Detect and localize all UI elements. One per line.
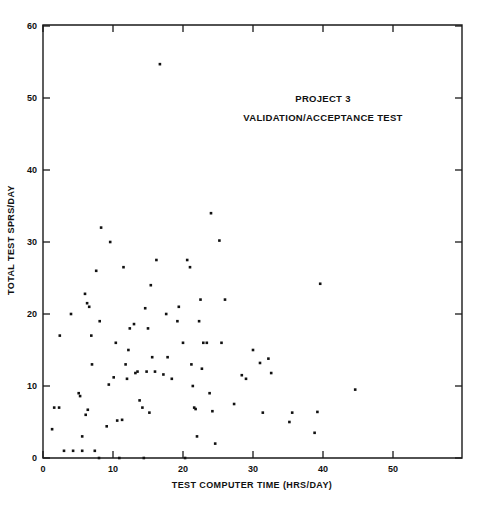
data-point	[63, 450, 66, 453]
y-axis-title: TOTAL TEST SPRS/DAY	[6, 185, 16, 295]
y-tick-label: 20	[27, 309, 37, 319]
data-point	[94, 450, 97, 453]
data-point	[214, 442, 217, 445]
data-point	[144, 307, 147, 310]
data-point	[354, 388, 357, 391]
data-point	[159, 63, 162, 66]
data-point	[77, 392, 80, 395]
data-point	[145, 370, 148, 373]
data-point	[53, 406, 56, 409]
data-point	[86, 302, 89, 305]
data-point	[118, 457, 121, 460]
data-point	[210, 212, 213, 215]
data-point	[121, 419, 124, 422]
data-point	[184, 457, 187, 460]
data-point	[127, 349, 130, 352]
data-point	[141, 406, 144, 409]
y-tick-label: 60	[27, 21, 37, 31]
data-point	[151, 356, 154, 359]
x-tick-label: 20	[178, 464, 188, 474]
data-point	[319, 282, 322, 285]
data-point	[154, 370, 157, 373]
data-point	[91, 363, 94, 366]
data-point	[138, 399, 141, 402]
data-point	[143, 457, 146, 460]
x-tick-label: 10	[108, 464, 118, 474]
data-point	[176, 320, 179, 323]
data-point	[70, 313, 73, 316]
data-point	[108, 383, 111, 386]
x-tick-label: 30	[248, 464, 258, 474]
data-point	[220, 342, 223, 345]
data-point	[115, 342, 118, 345]
data-point	[98, 457, 101, 460]
data-point	[178, 306, 181, 309]
chart-canvas: 01020304050 0102030405060 PROJECT 3VALID…	[0, 0, 486, 508]
data-point	[59, 334, 62, 337]
data-point	[267, 357, 270, 360]
data-point	[166, 356, 169, 359]
scatter-plot-figure: 01020304050 0102030405060 PROJECT 3VALID…	[0, 0, 486, 508]
chart-annotation: VALIDATION/ACCEPTANCE TEST	[243, 112, 402, 123]
data-point	[182, 342, 185, 345]
data-point	[72, 450, 75, 453]
data-point	[202, 342, 205, 345]
data-point	[245, 378, 248, 381]
y-tick-label: 50	[27, 93, 37, 103]
data-point	[162, 373, 165, 376]
data-point	[150, 284, 153, 287]
data-point	[252, 349, 255, 352]
data-point	[124, 363, 127, 366]
data-point	[208, 392, 211, 395]
data-point	[155, 259, 158, 262]
y-tick-label: 30	[27, 237, 37, 247]
data-point	[98, 320, 101, 323]
x-tick-label: 0	[40, 464, 45, 474]
data-point	[316, 411, 319, 414]
data-point	[291, 411, 294, 414]
x-axis-title: TEST COMPUTER TIME (HRS/DAY)	[172, 480, 332, 490]
data-point	[196, 435, 199, 438]
data-point	[126, 378, 129, 381]
data-point	[218, 239, 221, 242]
data-point	[88, 306, 91, 309]
data-point	[84, 293, 87, 296]
data-point	[133, 323, 136, 326]
data-point	[190, 363, 193, 366]
data-point	[87, 408, 90, 411]
data-point	[211, 410, 214, 413]
data-point	[259, 362, 262, 365]
data-point	[206, 342, 209, 345]
chart-annotation: PROJECT 3	[295, 93, 351, 104]
data-point	[58, 406, 61, 409]
data-point	[79, 395, 82, 398]
data-point	[270, 372, 273, 375]
x-tick-label: 40	[318, 464, 328, 474]
data-point	[129, 327, 132, 330]
data-point	[148, 411, 151, 414]
data-point	[147, 327, 150, 330]
data-point	[224, 298, 227, 301]
data-point	[192, 385, 195, 388]
data-point	[198, 320, 201, 323]
chart-background	[0, 0, 486, 508]
data-point	[194, 408, 197, 411]
y-tick-label: 0	[32, 453, 37, 463]
y-tick-label: 40	[27, 165, 37, 175]
data-point	[241, 374, 244, 377]
data-point	[100, 226, 103, 229]
data-point	[288, 421, 291, 424]
data-point	[233, 403, 236, 406]
x-tick-label: 50	[388, 464, 398, 474]
data-point	[90, 334, 93, 337]
data-point	[122, 266, 125, 269]
data-point	[95, 270, 98, 273]
data-point	[186, 259, 189, 262]
data-point	[109, 241, 112, 244]
data-point	[105, 425, 108, 428]
data-point	[136, 370, 139, 373]
data-point	[313, 432, 316, 435]
data-point	[116, 419, 119, 422]
data-point	[165, 313, 168, 316]
data-point	[112, 376, 115, 379]
